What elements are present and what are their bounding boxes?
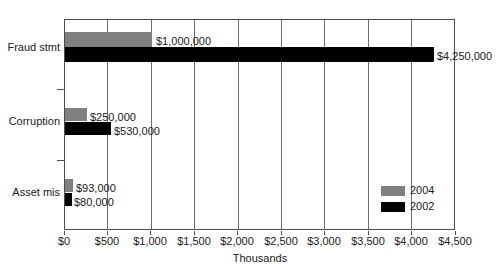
x-tick-label: $3,500 — [351, 236, 385, 247]
x-tick-label: $500 — [95, 236, 119, 247]
bar-asset-mis-2004[interactable] — [65, 179, 73, 192]
legend-label-2004: 2004 — [410, 185, 434, 196]
bar-value-label-corruption-2002: $530,000 — [114, 126, 160, 137]
legend-item-2004[interactable]: 2004 — [381, 184, 434, 197]
bar-fraud-stmt-2004[interactable] — [65, 32, 152, 47]
x-axis-title: Thousands — [233, 253, 287, 264]
bar-corruption-2002[interactable] — [65, 122, 111, 135]
x-tick-label: $2,000 — [220, 236, 254, 247]
x-tick-label: $1,000 — [133, 236, 167, 247]
x-tick-label: $2,500 — [264, 236, 298, 247]
bar-value-label-fraud-stmt-2002: $4,250,000 — [437, 51, 492, 62]
legend: 2004 2002 — [381, 184, 434, 216]
x-tick-label: $3,000 — [307, 236, 341, 247]
legend-swatch-icon-2004 — [381, 186, 405, 196]
x-tick-label: $1,500 — [177, 236, 211, 247]
bar-value-label-asset-mis-2002: $80,000 — [74, 197, 114, 208]
x-tick-label: $4,000 — [394, 236, 428, 247]
category-tick — [57, 89, 64, 90]
bar-corruption-2004[interactable] — [65, 108, 87, 121]
bar-fraud-stmt-2002[interactable] — [65, 47, 434, 62]
bar-value-label-fraud-stmt-2004: $1,000,000 — [156, 36, 211, 47]
category-label-corruption: Corruption — [9, 116, 60, 127]
legend-swatch-icon-2002 — [381, 202, 405, 212]
category-label-asset-mis: Asset mis — [12, 187, 60, 198]
bar-asset-mis-2002[interactable] — [65, 193, 72, 206]
category-label-fraud-stmt: Fraud stmt — [7, 42, 60, 53]
bar-chart: $1,000,000 $4,250,000 $250,000 $530,000 … — [0, 0, 499, 273]
legend-item-2002[interactable]: 2002 — [381, 200, 434, 213]
bar-value-label-asset-mis-2004: $93,000 — [76, 183, 116, 194]
legend-label-2002: 2002 — [410, 201, 434, 212]
x-tick-label: $4,500 — [438, 236, 472, 247]
category-tick — [57, 160, 64, 161]
x-tick-label: $0 — [58, 236, 70, 247]
